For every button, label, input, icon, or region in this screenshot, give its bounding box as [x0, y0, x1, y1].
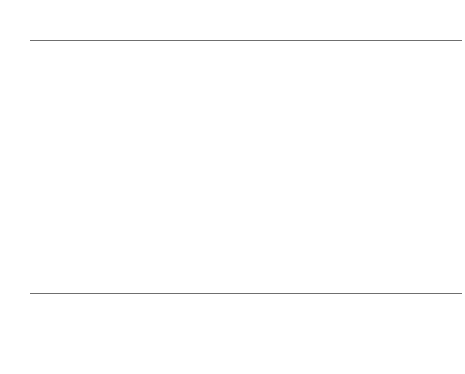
summary-rule [30, 293, 462, 294]
forest-plot [0, 0, 465, 374]
forest-graphics [0, 0, 465, 374]
